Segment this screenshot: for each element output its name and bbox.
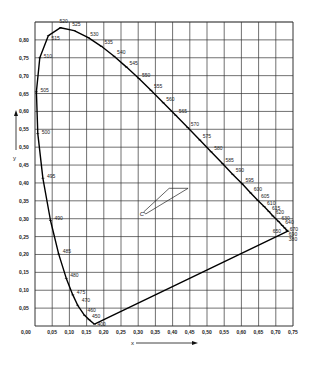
y-tick-label: 0,05 <box>19 305 29 311</box>
wavelength-label: 565 <box>179 108 188 114</box>
wavelength-label: 450 <box>92 313 101 319</box>
y-axis-arrow-icon <box>14 110 18 116</box>
y-tick-label: 0,70 <box>19 73 29 79</box>
wavelength-label: 520 <box>59 18 68 24</box>
y-tick-label: 0,15 <box>19 269 29 275</box>
wavelength-label: 475 <box>77 289 86 295</box>
x-tick-label: 0,70 <box>271 329 281 335</box>
x-tick-label: 0,10 <box>64 329 74 335</box>
wavelength-label: 510 <box>44 53 53 59</box>
x-tick-label: 0,40 <box>168 329 178 335</box>
x-axis-label: x <box>131 340 134 346</box>
x-tick-label: 0,65 <box>254 329 264 335</box>
x-tick-label: 0,20 <box>99 329 109 335</box>
y-tick-label: 0,50 <box>19 144 29 150</box>
y-tick-label: 0,25 <box>19 234 29 240</box>
wavelength-label: 590 <box>236 167 245 173</box>
y-tick-label: 0,30 <box>19 216 29 222</box>
y-tick-label: 0,75 <box>19 55 29 61</box>
x-tick-label: 0,75 <box>288 329 298 335</box>
x-tick-label: 0,45 <box>185 329 195 335</box>
y-tick-label: 0,10 <box>19 287 29 293</box>
y-tick-label: 0,45 <box>19 162 29 168</box>
wavelength-label: 535 <box>104 39 113 45</box>
wavelength-label: 595 <box>245 177 254 183</box>
wavelength-label: 640 <box>285 219 294 225</box>
y-tick-label: 0,80 <box>19 37 29 43</box>
wavelength-label: 460 <box>88 307 97 313</box>
white-point-marker: C <box>140 188 188 217</box>
y-axis-label-group: y <box>13 110 18 161</box>
wavelength-label: 690 <box>289 231 298 237</box>
x-tick-labels: 0,000,050,100,150,200,250,300,350,400,45… <box>21 329 298 335</box>
x-tick-label: 0,55 <box>219 329 229 335</box>
wavelength-label: 470 <box>82 297 91 303</box>
wavelength-label: 490 <box>54 215 63 221</box>
wavelength-label: 505 <box>40 87 49 93</box>
y-tick-label: 0,55 <box>19 126 29 132</box>
wavelength-label: 585 <box>225 157 234 163</box>
x-tick-label: 0,50 <box>202 329 212 335</box>
x-tick-label: 0,60 <box>236 329 246 335</box>
wavelength-label: 575 <box>203 133 212 139</box>
spectral-locus-curve <box>36 28 287 325</box>
wavelength-label: 500 <box>42 129 51 135</box>
grid-lines <box>35 22 293 326</box>
x-tick-label: 0,05 <box>47 329 57 335</box>
wavelength-label: 650 <box>273 228 282 234</box>
white-point-label: C <box>140 211 145 217</box>
x-tick-label: 0,25 <box>116 329 126 335</box>
wavelength-label: 545 <box>130 60 139 66</box>
wavelength-label: 530 <box>90 31 99 37</box>
y-axis-label: y <box>13 155 16 161</box>
wavelength-label: 550 <box>142 72 151 78</box>
wavelength-label: 515 <box>51 35 60 41</box>
wavelength-label: 560 <box>166 96 175 102</box>
wavelength-label: 400 <box>98 321 107 327</box>
x-axis-label-group: x <box>131 340 198 346</box>
wavelength-label: 600 <box>254 186 263 192</box>
x-tick-label: 0,35 <box>150 329 160 335</box>
wavelength-label: 540 <box>117 49 126 55</box>
x-tick-label: 0,00 <box>21 329 31 335</box>
y-tick-label: 0,35 <box>19 198 29 204</box>
wavelength-label: 480 <box>70 272 79 278</box>
y-tick-label: 0,65 <box>19 91 29 97</box>
y-tick-label: 0,20 <box>19 251 29 257</box>
y-tick-labels: 0,050,100,150,200,250,300,350,400,450,50… <box>19 37 29 311</box>
wavelength-label: 570 <box>191 121 200 127</box>
x-tick-label: 0,15 <box>82 329 92 335</box>
spectral-locus <box>36 28 287 325</box>
x-axis-arrow-icon <box>192 341 198 345</box>
wavelength-label: 580 <box>214 145 223 151</box>
chromaticity-diagram: 0,000,050,100,150,200,250,300,350,400,45… <box>0 0 319 366</box>
wavelength-label: 485 <box>63 248 72 254</box>
x-tick-label: 0,30 <box>133 329 143 335</box>
wavelength-label: 525 <box>72 21 81 27</box>
y-tick-label: 0,60 <box>19 108 29 114</box>
wavelength-label: 495 <box>47 173 56 179</box>
y-tick-label: 0,40 <box>19 180 29 186</box>
wavelength-label: 555 <box>154 83 163 89</box>
